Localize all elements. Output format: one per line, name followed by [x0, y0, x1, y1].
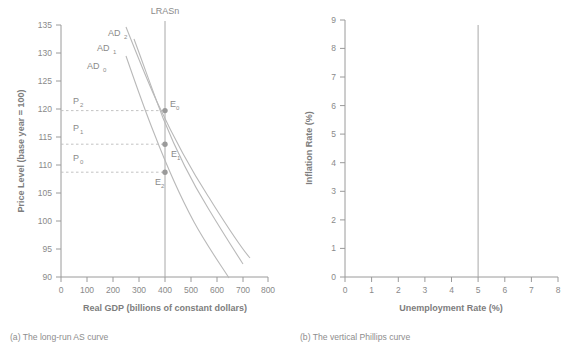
- figure-container: 90 95 100 105 110 115 120 125 130 135: [0, 0, 569, 359]
- x-ticks-a: [61, 277, 268, 282]
- x-tick-label: 5: [476, 285, 481, 295]
- equilibrium-label-e2: E 2: [155, 177, 165, 189]
- y-tick-label: 90: [43, 272, 53, 282]
- x-tick-label: 4: [449, 285, 454, 295]
- x-tick-labels-a: 0 100 200 300 400 500 600 700 800: [59, 285, 276, 295]
- curve-label-ad2: AD 2: [108, 28, 128, 40]
- caption-panel-b: (b) The vertical Phillips curve: [300, 332, 410, 342]
- x-tick-label: 6: [502, 285, 507, 295]
- price-level-label-p1-text: P: [73, 123, 79, 133]
- x-tick-label: 500: [184, 285, 198, 295]
- equilibrium-label-e1: E 1: [171, 149, 181, 161]
- y-tick-label: 0: [331, 272, 336, 282]
- y-tick-label: 9: [331, 15, 336, 25]
- y-tick-label: 105: [38, 188, 52, 198]
- equilibrium-label-e2-sub: 2: [161, 183, 165, 189]
- axes-b: [345, 20, 558, 277]
- curve-label-ad0-text: AD: [87, 61, 100, 71]
- equilibrium-dot-e1: [162, 142, 167, 147]
- curve-ad0: [126, 56, 229, 278]
- y-ticks-a: [56, 25, 61, 277]
- x-ticks-b: [345, 277, 558, 282]
- caption-panel-a: (a) The long-run AS curve: [10, 332, 108, 342]
- x-tick-label: 3: [423, 285, 428, 295]
- x-tick-label: 1: [369, 285, 374, 295]
- price-level-label-p2: P 2: [73, 96, 84, 108]
- y-tick-label: 7: [331, 72, 336, 82]
- curve-label-ad1-text: AD: [97, 43, 110, 53]
- x-tick-label: 7: [529, 285, 534, 295]
- curve-label-ad2-text: AD: [108, 28, 121, 38]
- x-tick-label: 800: [261, 285, 275, 295]
- y-ticks-b: [340, 20, 345, 277]
- x-tick-label: 600: [210, 285, 224, 295]
- lras-label: LRASn: [151, 6, 180, 16]
- y-tick-label: 6: [331, 101, 336, 111]
- y-tick-label: 125: [38, 76, 52, 86]
- y-tick-label: 5: [331, 129, 336, 139]
- x-tick-label: 700: [236, 285, 250, 295]
- x-tick-label: 100: [80, 285, 94, 295]
- price-level-label-p0: P 0: [73, 153, 84, 165]
- curve-label-ad0: AD 0: [87, 61, 107, 73]
- chart-b-svg: 0 1 2 3 4 5 6 7 8 9: [290, 0, 569, 330]
- y-tick-label: 115: [38, 132, 52, 142]
- x-tick-label: 400: [158, 285, 172, 295]
- y-tick-label: 130: [38, 48, 52, 58]
- panel-long-run-as-curve: 90 95 100 105 110 115 120 125 130 135: [0, 0, 290, 359]
- curve-label-ad1: AD 1: [97, 43, 117, 55]
- y-tick-label: 8: [331, 43, 336, 53]
- equilibrium-label-e0-sub: 0: [176, 105, 180, 111]
- curve-ad2: [126, 27, 250, 258]
- y-tick-label: 4: [331, 158, 336, 168]
- y-tick-label: 100: [38, 216, 52, 226]
- x-tick-label: 2: [396, 285, 401, 295]
- x-tick-label: 200: [106, 285, 120, 295]
- x-tick-labels-b: 0 1 2 3 4 5 6 7 8: [343, 285, 561, 295]
- curve-label-ad0-sub: 0: [103, 67, 107, 73]
- y-tick-label: 3: [331, 186, 336, 196]
- price-level-label-p1: P 1: [73, 123, 84, 135]
- y-axis-title-a: Price Level (base year = 100): [16, 90, 26, 213]
- curve-label-ad2-sub: 2: [124, 34, 128, 40]
- curve-label-ad1-sub: 1: [113, 49, 117, 55]
- price-level-label-p1-sub: 1: [80, 129, 84, 135]
- y-tick-labels-b: 0 1 2 3 4 5 6 7 8 9: [331, 15, 336, 282]
- x-tick-label: 300: [132, 285, 146, 295]
- y-tick-label: 1: [331, 243, 336, 253]
- y-tick-label: 110: [38, 160, 52, 170]
- x-tick-label: 0: [59, 285, 64, 295]
- equilibrium-label-e0: E 0: [170, 99, 180, 111]
- equilibrium-dot-e0: [162, 108, 167, 113]
- curve-ad1: [134, 39, 243, 264]
- x-tick-label: 8: [556, 285, 561, 295]
- equilibrium-dot-e2: [162, 170, 167, 175]
- x-tick-label: 0: [343, 285, 348, 295]
- y-tick-label: 95: [43, 244, 53, 254]
- y-tick-label: 2: [331, 215, 336, 225]
- chart-a-svg: 90 95 100 105 110 115 120 125 130 135: [0, 0, 290, 330]
- price-level-label-p0-text: P: [73, 153, 79, 163]
- y-tick-label: 120: [38, 104, 52, 114]
- x-axis-title-a: Real GDP (billions of constant dollars): [83, 303, 247, 313]
- y-tick-label: 135: [38, 20, 52, 30]
- panel-vertical-phillips-curve: 0 1 2 3 4 5 6 7 8 9: [290, 0, 569, 359]
- price-level-label-p2-text: P: [73, 96, 79, 106]
- y-axis-title-b: Inflation Rate (%): [304, 111, 314, 185]
- x-axis-title-b: Unemployment Rate (%): [399, 303, 503, 313]
- y-tick-labels-a: 90 95 100 105 110 115 120 125 130 135: [38, 20, 52, 282]
- price-level-label-p0-sub: 0: [80, 159, 84, 165]
- price-level-label-p2-sub: 2: [80, 102, 84, 108]
